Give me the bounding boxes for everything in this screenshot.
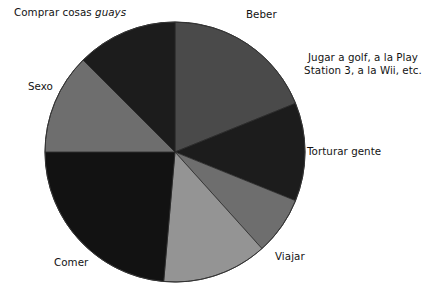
pie-label-sexo: Sexo <box>28 80 53 93</box>
pie-label-viajar: Viajar <box>275 250 305 263</box>
pie-label-jugar-a-golf: Jugar a golf, a la PlayStation 3, a la W… <box>300 51 426 77</box>
pie-label-comer: Comer <box>54 256 88 269</box>
pie-label-jugar-line-1: Jugar a golf, a la Play <box>308 51 418 63</box>
pie-label-jugar-line-2: Station 3, a la Wii, etc. <box>304 64 422 76</box>
pie-label-comprar-cosas-guays: Comprar cosas guays <box>14 6 126 19</box>
pie-label-torturar-gente: Torturar gente <box>307 145 381 158</box>
pie-label-comprar-emphasis: guays <box>95 6 126 18</box>
pie-chart-figure: Comprar cosas guays Beber Jugar a golf, … <box>0 0 430 298</box>
pie-slice-group <box>45 22 305 282</box>
pie-label-beber: Beber <box>246 8 277 21</box>
pie-label-comprar-text: Comprar cosas <box>14 6 95 18</box>
